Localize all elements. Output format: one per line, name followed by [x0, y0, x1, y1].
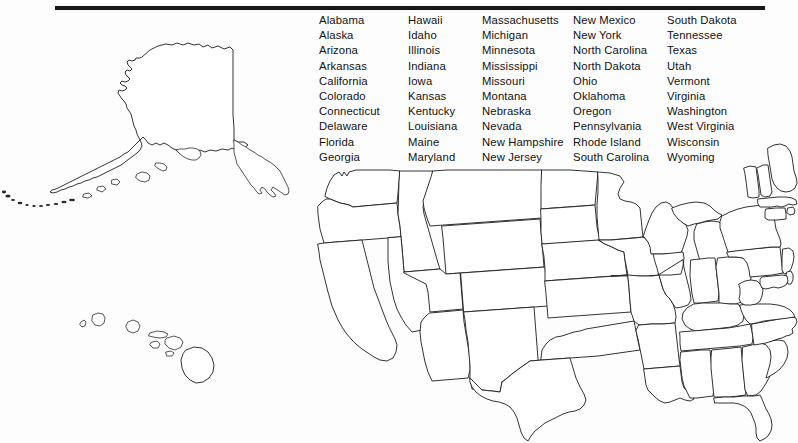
aleutian-island-b — [97, 186, 106, 192]
connecticut-outline — [765, 208, 786, 220]
hawaii-maui — [165, 336, 183, 350]
aleutian-island-a — [112, 179, 120, 185]
kodiak-island — [136, 172, 150, 182]
hawaii-molokai — [149, 331, 168, 338]
florida-outline — [714, 395, 772, 441]
arkansas-outline — [636, 323, 680, 369]
maine-outline — [768, 144, 797, 192]
vermont-outline — [744, 166, 759, 198]
colorado-outline — [461, 267, 548, 312]
hawaii-kauai — [92, 313, 105, 326]
west-virginia-outline — [739, 280, 763, 305]
alabama-outline — [711, 347, 746, 397]
hawaii-oahu — [126, 320, 140, 333]
hawaii-big-island — [181, 347, 214, 383]
south-dakota-outline — [541, 205, 603, 244]
california-outline — [318, 240, 397, 361]
hawaii-niihau — [80, 320, 86, 327]
new-jersey-outline — [782, 248, 794, 274]
indiana-outline — [690, 258, 719, 303]
kansas-outline — [545, 275, 631, 318]
alaska-panhandle — [234, 140, 289, 197]
contiguous-us-map — [318, 144, 797, 441]
us-map — [0, 0, 798, 443]
montana-outline — [423, 170, 542, 226]
aleutian-chain-specks — [2, 191, 75, 207]
north-dakota-outline — [541, 170, 598, 209]
rhode-island-outline — [787, 207, 795, 215]
hawaii-lanai — [150, 341, 160, 348]
alaska-inset — [2, 43, 289, 207]
arizona-outline — [420, 310, 470, 381]
maryland-outline — [760, 275, 788, 289]
minnesota-outline — [597, 172, 643, 240]
aleutian-island-c — [83, 193, 92, 198]
alaska-outline — [50, 43, 248, 193]
cook-inlet-detail — [155, 163, 167, 171]
hawaii-kahoolawe — [166, 351, 174, 356]
alaska-bay-detail — [176, 148, 201, 160]
hawaii-inset — [80, 313, 214, 383]
massachusetts-outline — [758, 197, 797, 207]
worksheet-sheet: AlabamaAlaskaArizonaArkansasCaliforniaCo… — [0, 0, 798, 443]
wyoming-outline — [442, 219, 544, 274]
